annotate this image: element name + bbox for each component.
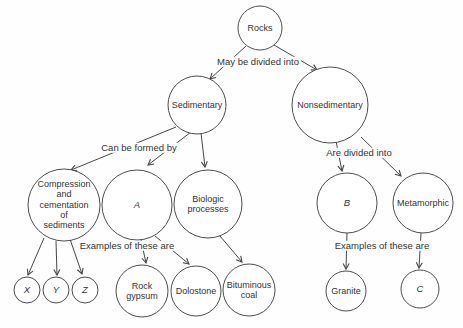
node-label-sedimentary: Sedimentary [172,100,223,110]
node-label-nonsedimentary: Nonsedimentary [297,100,363,110]
node-label-biologic: Biologic processes [187,194,228,215]
node-label-metamorphic: Metamorphic [397,198,449,208]
edge-label-may-be-divided-into: May be divided into [215,57,301,67]
edge-label-examples-of-these-are-right: Examples of these are [333,241,432,251]
node-label-x: X [24,285,30,296]
node-label-rock-gypsum: Rock gypsum [126,281,158,302]
node-label-dolostone: Dolostone [176,286,217,296]
edge-label-can-be-formed-by: Can be formed by [99,143,179,153]
edge-label-are-divided-into: Are divided into [324,148,393,158]
node-label-y: Y [53,285,59,296]
rock-classification-concept-map: RocksSedimentaryNonsedimentaryCompressio… [0,0,463,328]
node-label-a: A [134,200,140,211]
node-label-b: B [344,198,350,209]
node-label-bituminous-coal: Bituminous coal [227,280,272,301]
node-label-z: Z [82,285,88,296]
node-label-compression: Compression and cementation of sediments [37,179,90,231]
diagram-labels: RocksSedimentaryNonsedimentaryCompressio… [0,0,463,328]
node-label-c: C [417,284,424,295]
edge-label-examples-of-these-are-left: Examples of these are [78,241,177,251]
node-label-rocks: Rocks [247,23,272,33]
node-label-granite: Granite [331,286,361,296]
